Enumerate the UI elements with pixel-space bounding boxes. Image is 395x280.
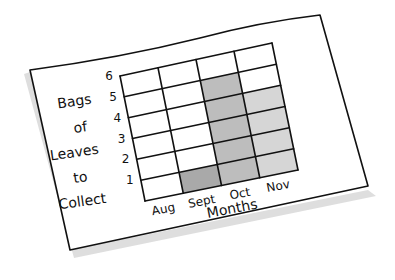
y-tick-label: 2 [122,152,130,166]
y-tick-label: 3 [118,132,126,146]
y-tick-label: 4 [114,111,122,125]
y-tick-label: 6 [105,69,113,83]
y-tick-label: 1 [126,173,134,187]
y-tick-label: 5 [109,90,117,104]
y-axis-title-line: to [72,168,88,186]
chart-card: 123456AugSeptOctNovMonthsBagsofLeavestoC… [0,0,395,280]
